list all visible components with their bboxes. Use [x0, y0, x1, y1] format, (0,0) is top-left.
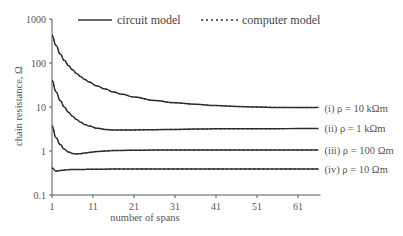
series-label: (i) ρ = 10 kΩm: [325, 103, 388, 115]
y-tick-label: 10: [36, 102, 46, 113]
x-tick-label: 11: [88, 201, 98, 212]
chain-resistance-chart: circuit model computer model 0.111010010…: [0, 0, 403, 236]
series-line-computer: [52, 81, 319, 130]
series-line-circuit: [52, 81, 319, 130]
x-tick-label: 31: [170, 201, 180, 212]
y-tick-label: 1000: [26, 14, 46, 25]
x-tick-label: 51: [252, 201, 262, 212]
series-line-circuit: [52, 35, 319, 107]
y-axis-title: chain resistance, Ω: [13, 66, 24, 146]
series-label: (iv) ρ = 10 Ωm: [325, 164, 388, 176]
x-axis-title: number of spans: [110, 212, 179, 223]
curves: [52, 35, 319, 171]
x-tick-label: 1: [50, 201, 55, 212]
series-label: (iii) ρ = 100 Ωm: [325, 145, 394, 157]
series-line-computer: [52, 35, 319, 107]
series-labels: (i) ρ = 10 kΩm(ii) ρ = 1 kΩm(iii) ρ = 10…: [325, 103, 394, 176]
legend: circuit model computer model: [78, 13, 321, 27]
series-label: (ii) ρ = 1 kΩm: [325, 123, 386, 135]
y-tick-label: 100: [31, 58, 46, 69]
y-tick-label: 1: [41, 146, 46, 157]
x-tick-label: 21: [129, 201, 139, 212]
legend-label-computer: computer model: [242, 13, 321, 27]
x-tick-label: 41: [211, 201, 221, 212]
y-tick-label: 0.1: [34, 190, 47, 201]
legend-label-circuit: circuit model: [117, 13, 181, 27]
x-tick-label: 61: [293, 201, 303, 212]
